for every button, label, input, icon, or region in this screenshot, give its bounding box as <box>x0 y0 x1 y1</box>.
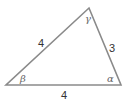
right-side-label: 3 <box>109 42 115 54</box>
alpha-angle-label: α <box>107 73 114 84</box>
beta-angle-label: β <box>19 73 26 84</box>
bottom-side-label: 4 <box>61 89 67 100</box>
gamma-angle-label: γ <box>85 13 91 24</box>
triangle-diagram: 4 3 4 β α γ <box>0 0 125 100</box>
left-side-label: 4 <box>38 37 44 49</box>
